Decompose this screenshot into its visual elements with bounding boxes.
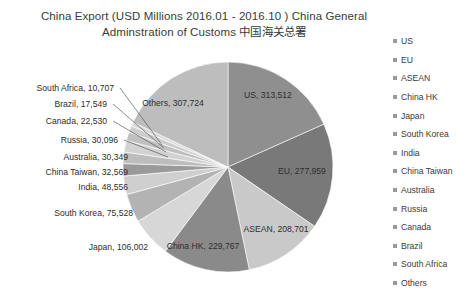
slice-data-label: India, 48,556 — [78, 182, 128, 192]
legend-item[interactable]: South Korea — [393, 125, 465, 144]
legend-item-label: Australia — [401, 185, 434, 195]
legend-swatch-icon — [393, 169, 397, 173]
legend-item[interactable]: EU — [393, 51, 465, 70]
legend-swatch-icon — [393, 58, 397, 62]
legend-swatch-icon — [393, 151, 397, 155]
legend-item[interactable]: South Africa — [393, 255, 465, 274]
plot-area: US, 313,512EU, 277,959ASEAN, 208,701Chin… — [0, 0, 400, 298]
legend-swatch-icon — [393, 95, 397, 99]
legend-item[interactable]: ASEAN — [393, 69, 465, 88]
pie-chart-figure: China Export (USD Millions 2016.01 - 201… — [0, 0, 469, 298]
legend-item[interactable]: Brazil — [393, 237, 465, 256]
legend-swatch-icon — [393, 114, 397, 118]
legend-item[interactable]: Canada — [393, 218, 465, 237]
legend-item[interactable]: China HK — [393, 88, 465, 107]
legend-swatch-icon — [393, 225, 397, 229]
slice-data-label: Brazil, 17,549 — [54, 99, 107, 109]
slice-data-label: Japan, 106,002 — [89, 242, 148, 252]
legend-item-label: India — [401, 148, 420, 158]
legend-item-label: US — [401, 36, 413, 46]
legend-item[interactable]: China Taiwan — [393, 162, 465, 181]
legend-swatch-icon — [393, 262, 397, 266]
legend-item[interactable]: US — [393, 32, 465, 51]
legend-swatch-icon — [393, 132, 397, 136]
legend-item-label: South Korea — [401, 129, 449, 139]
slice-data-label: Others, 307,724 — [142, 98, 204, 108]
legend-swatch-icon — [393, 188, 397, 192]
legend-item-label: ASEAN — [401, 73, 430, 83]
legend-swatch-icon — [393, 281, 397, 285]
slice-data-label: China HK, 229,767 — [167, 241, 240, 251]
legend-item-label: EU — [401, 55, 413, 65]
legend-item-label: China Taiwan — [401, 166, 452, 176]
slice-data-label: Australia, 30,349 — [64, 152, 129, 162]
slice-data-label: ASEAN, 208,701 — [244, 224, 309, 234]
legend-item-label: Brazil — [401, 241, 423, 251]
slice-data-label: Canada, 22,530 — [46, 116, 107, 126]
legend-item-label: Canada — [401, 222, 431, 232]
legend-item-label: South Africa — [401, 259, 447, 269]
legend-item[interactable]: Others — [393, 274, 465, 293]
legend-item[interactable]: Japan — [393, 106, 465, 125]
legend-item-label: China HK — [401, 92, 438, 102]
slice-data-label: US, 313,512 — [244, 90, 292, 100]
slice-data-label: South Africa, 10,707 — [37, 83, 115, 93]
slice-data-label: Russia, 30,096 — [61, 135, 119, 145]
pie-svg: US, 313,512EU, 277,959ASEAN, 208,701Chin… — [0, 0, 400, 298]
slice-data-label: South Korea, 75,528 — [54, 208, 133, 218]
legend-item-label: Others — [401, 278, 427, 288]
legend-item-label: Russia — [401, 204, 427, 214]
legend-swatch-icon — [393, 207, 397, 211]
legend-swatch-icon — [393, 39, 397, 43]
legend-swatch-icon — [393, 244, 397, 248]
slice-data-label: EU, 277,959 — [278, 166, 326, 176]
legend-item[interactable]: Australia — [393, 181, 465, 200]
legend-item[interactable]: India — [393, 144, 465, 163]
legend-swatch-icon — [393, 76, 397, 80]
legend-item-label: Japan — [401, 111, 424, 121]
chart-legend: USEUASEANChina HKJapanSouth KoreaIndiaCh… — [393, 32, 465, 292]
slice-data-label: China Taiwan, 32,569 — [46, 167, 129, 177]
legend-item[interactable]: Russia — [393, 199, 465, 218]
